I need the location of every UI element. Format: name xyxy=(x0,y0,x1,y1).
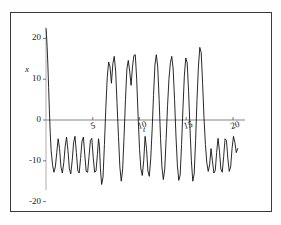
data-curve xyxy=(46,28,238,184)
axes-group xyxy=(43,30,245,202)
y-axis-title: x xyxy=(25,64,29,74)
y-tick-label: -20 xyxy=(29,196,41,206)
y-tick-label: -10 xyxy=(29,155,41,165)
x-tick-marks xyxy=(93,117,233,120)
y-tick-label: 20 xyxy=(32,32,41,42)
y-tick-marks xyxy=(43,38,46,201)
figure-plot: x t 20100-10-20 5101520 xyxy=(0,0,281,225)
plot-canvas xyxy=(0,0,281,225)
y-tick-label: 10 xyxy=(32,73,41,83)
y-tick-label: 0 xyxy=(37,114,42,124)
